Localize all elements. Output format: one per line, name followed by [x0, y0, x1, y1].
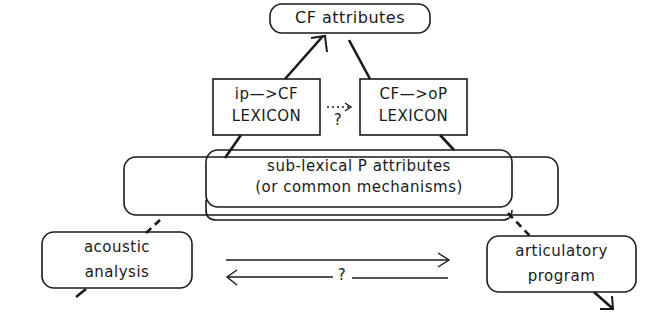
acoustic-label-line1: acoustic	[42, 238, 192, 257]
articulatory-label-line2: program	[487, 267, 636, 286]
link-ipcf-to-cf	[285, 36, 323, 79]
bottom-link-question: ?	[334, 266, 350, 285]
articulatory-label-line1: articulatory	[487, 242, 636, 261]
arrowhead-icon	[311, 36, 327, 52]
link-middle-to-acoustic	[146, 220, 160, 233]
acoustic-input-tail	[76, 289, 86, 297]
ip-cf-lexicon-line1: ip—>CF	[213, 85, 320, 104]
middle-label-line1: sub-lexical P attributes	[206, 157, 512, 176]
middle-box-lower-outline	[206, 200, 512, 220]
middle-label-line2: (or common mechanisms)	[206, 178, 512, 197]
link-cfop-to-middle	[440, 135, 454, 150]
link-middle-to-articulatory	[508, 213, 530, 236]
acoustic-label-line2: analysis	[42, 263, 192, 282]
ip-cf-lexicon-line2: LEXICON	[213, 107, 320, 126]
link-ipcf-to-middle	[225, 135, 241, 158]
cf-attributes-label: CF attributes	[270, 8, 430, 27]
lexicon-link-question: ?	[330, 111, 346, 130]
articulatory-output-line	[594, 292, 612, 308]
cf-op-lexicon-line1: CF—>oP	[360, 85, 467, 104]
link-cf-to-cfop	[349, 40, 370, 79]
cf-op-lexicon-line2: LEXICON	[360, 107, 467, 126]
